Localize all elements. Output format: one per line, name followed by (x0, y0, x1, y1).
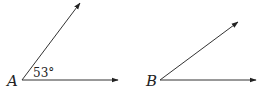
angle-a-vertex-label: A (5, 72, 18, 90)
angle-b-vertex-label: B (145, 72, 157, 90)
angles-diagram: A 53° B (0, 0, 263, 91)
angle-a: A 53° (5, 3, 118, 90)
angle-b-upper-ray (160, 22, 238, 80)
angle-a-measure-label: 53° (33, 66, 54, 80)
angle-b: B (145, 22, 256, 90)
